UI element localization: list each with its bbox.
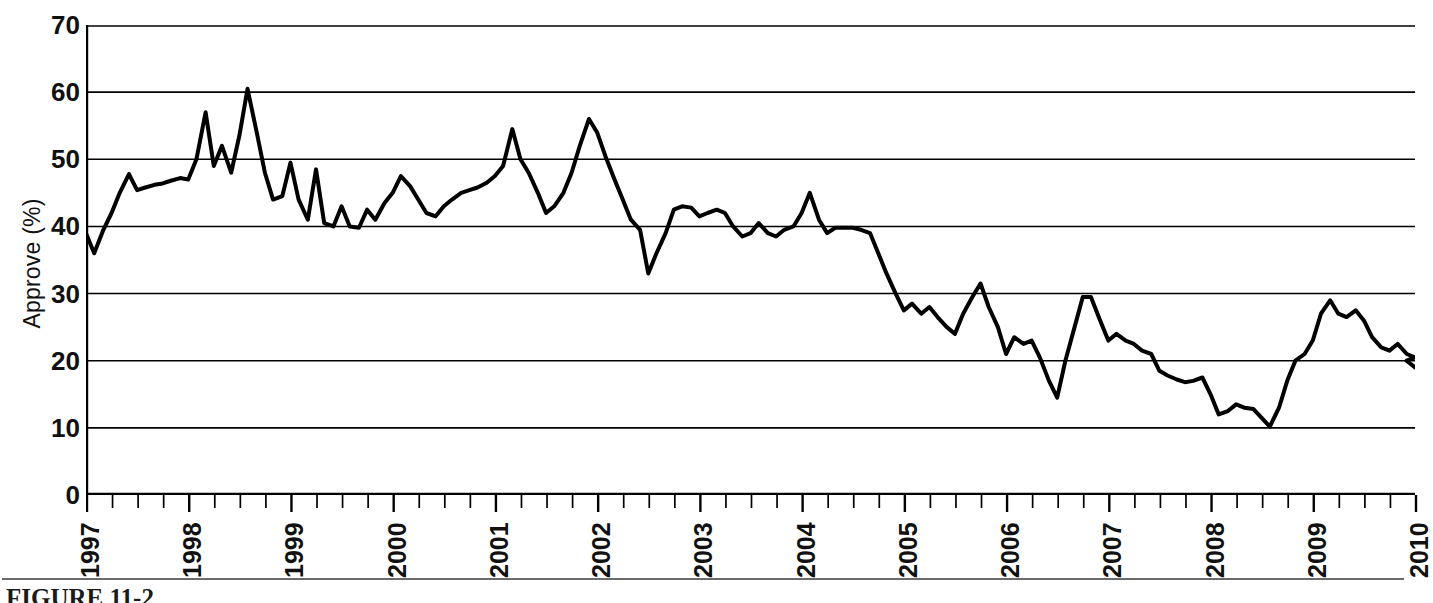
x-tick-label-2010: 2010	[1405, 522, 1433, 578]
x-tick-label-2002: 2002	[587, 522, 616, 578]
figure-caption: FIGURE 11-2	[6, 584, 154, 603]
x-tick-label-2000: 2000	[383, 522, 412, 578]
x-tick-label-2009: 2009	[1303, 522, 1332, 578]
x-tick-label-2004: 2004	[792, 522, 821, 578]
caption-divider	[2, 578, 1404, 580]
x-tick-label-1999: 1999	[280, 522, 309, 578]
x-tick-label-2003: 2003	[689, 522, 718, 578]
x-tick-label-2007: 2007	[1098, 522, 1127, 578]
x-tick-label-2005: 2005	[894, 522, 923, 578]
x-tick-label-2008: 2008	[1201, 522, 1230, 578]
x-tick-label-2006: 2006	[996, 522, 1025, 578]
x-tick-label-2001: 2001	[485, 522, 514, 578]
x-tick-label-1998: 1998	[178, 522, 207, 578]
x-tick-label-1997: 1997	[76, 522, 105, 578]
